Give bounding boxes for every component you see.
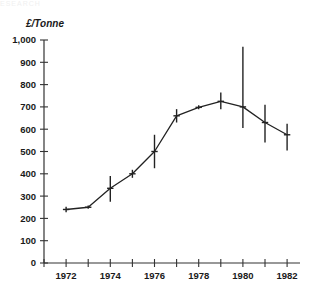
- error-bars: [66, 47, 287, 212]
- svg-text:1978: 1978: [188, 270, 209, 281]
- chart-figure: ESEARCH £/Tonne 010020030040050060070080…: [0, 0, 312, 291]
- svg-text:1976: 1976: [144, 270, 165, 281]
- svg-text:200: 200: [20, 213, 36, 224]
- svg-text:1972: 1972: [56, 270, 77, 281]
- svg-text:400: 400: [20, 168, 36, 179]
- svg-text:600: 600: [20, 124, 36, 135]
- svg-text:1982: 1982: [277, 270, 298, 281]
- svg-text:0: 0: [31, 257, 36, 268]
- x-axis: 197219741976197819801982: [44, 259, 300, 281]
- svg-text:1,000: 1,000: [12, 34, 36, 45]
- svg-text:700: 700: [20, 101, 36, 112]
- svg-text:800: 800: [20, 79, 36, 90]
- svg-text:1974: 1974: [100, 270, 122, 281]
- svg-text:100: 100: [20, 235, 36, 246]
- y-axis: 01002003004005006007008009001,000: [12, 34, 48, 268]
- svg-text:900: 900: [20, 57, 36, 68]
- svg-text:500: 500: [20, 146, 36, 157]
- line-chart-plot: 01002003004005006007008009001,000 197219…: [0, 0, 312, 291]
- svg-text:1980: 1980: [232, 270, 253, 281]
- svg-text:300: 300: [20, 191, 36, 202]
